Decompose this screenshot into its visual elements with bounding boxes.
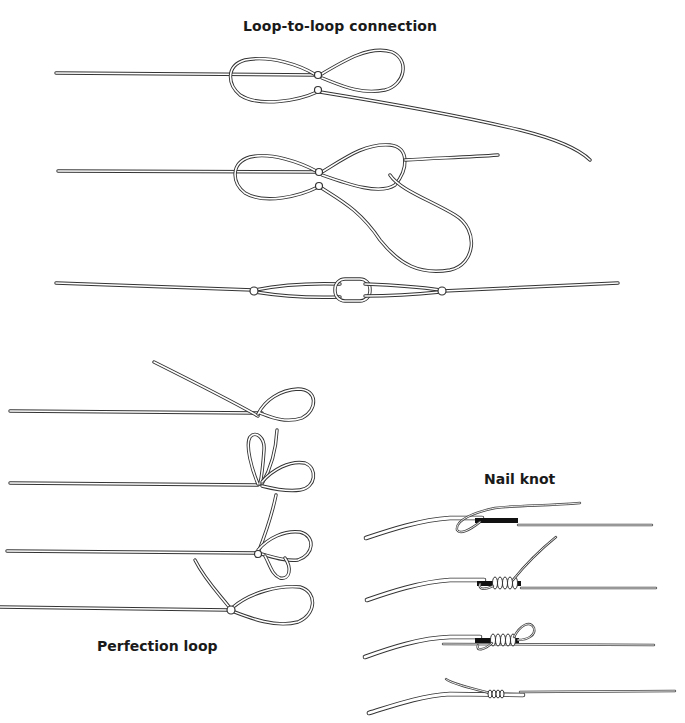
knot-icon: [315, 72, 322, 79]
loop-to-loop-step-1: [56, 50, 590, 160]
knot-icon: [438, 287, 446, 295]
nail-knot-step-3: [365, 624, 654, 657]
loop-to-loop-step-3: [56, 279, 618, 301]
perfection-loop-step-1: [10, 362, 314, 420]
nail-knot-step-4: [369, 679, 675, 713]
knot-icon: [316, 169, 323, 176]
perfection-loop-step-4: [0, 560, 313, 624]
coils: [491, 634, 516, 646]
knot-icon: [227, 606, 235, 614]
coils: [488, 690, 504, 698]
nail-icon: [475, 518, 518, 523]
perfection-loop-step-3: [7, 495, 311, 578]
nail-knot-step-1: [366, 503, 652, 538]
knot-diagrams: [0, 0, 685, 723]
knot-icon: [316, 183, 323, 190]
loop-to-loop-step-2: [58, 145, 498, 271]
nail-knot-step-2: [367, 537, 656, 600]
knot-icon: [315, 87, 322, 94]
perfection-loop-step-2: [10, 430, 314, 491]
knot-icon: [255, 551, 262, 558]
knot-icon: [250, 287, 258, 295]
